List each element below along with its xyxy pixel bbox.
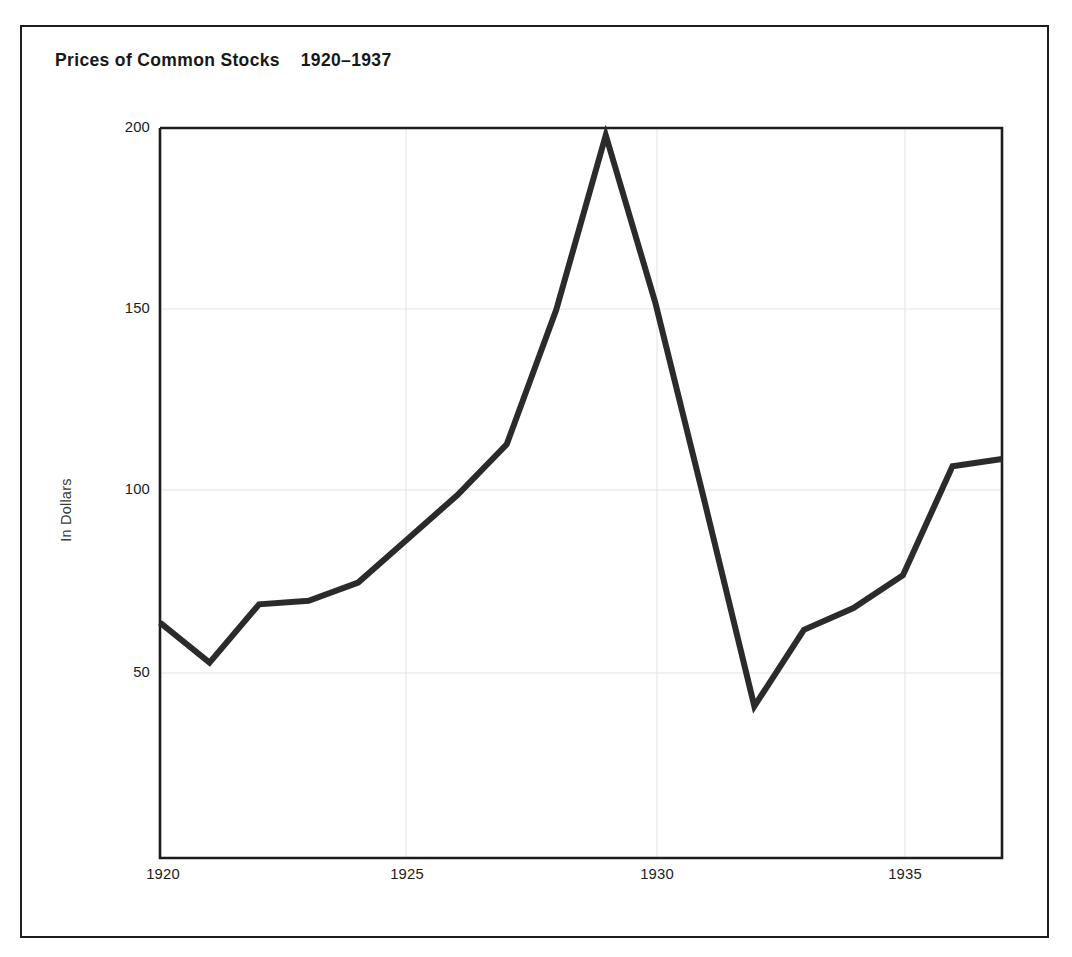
plot-area (0, 0, 1072, 957)
gridlines (160, 128, 1002, 858)
series-line-prices-of-common-stocks (160, 135, 1002, 706)
plot-border (160, 128, 1002, 858)
axis-spines (160, 128, 1002, 858)
figure-canvas: Prices of Common Stocks 1920–1937 In Dol… (0, 0, 1072, 957)
